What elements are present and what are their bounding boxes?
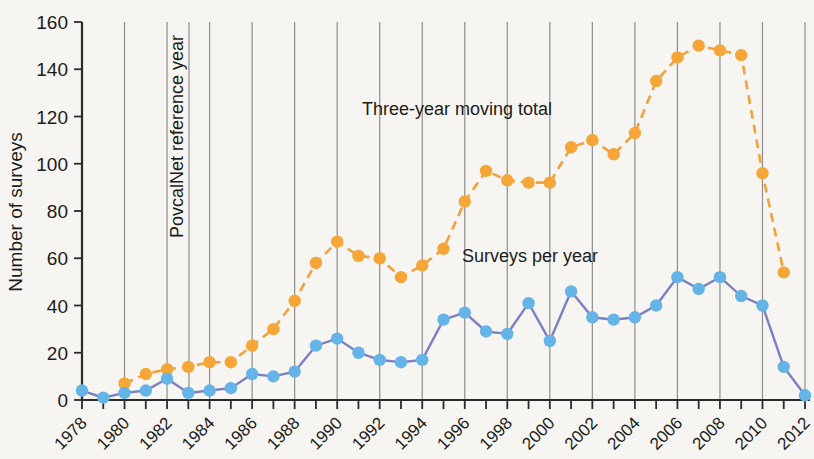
moving-total-point-2000 bbox=[544, 176, 556, 188]
surveys-per-year-point-1990 bbox=[331, 332, 343, 344]
annotation-moving-total: Three-year moving total bbox=[362, 99, 552, 119]
surveys-per-year-point-2006 bbox=[671, 271, 683, 283]
moving-total-point-1985 bbox=[225, 356, 237, 368]
moving-total-point-1991 bbox=[352, 250, 364, 262]
annotation-surveys-per-year: Surveys per year bbox=[462, 246, 598, 266]
moving-total-point-2007 bbox=[692, 39, 704, 51]
surveys-per-year-point-2008 bbox=[714, 271, 726, 283]
moving-total-point-1984 bbox=[203, 356, 215, 368]
y-tick-label-100: 100 bbox=[36, 154, 68, 175]
y-axis-label: Number of surveys bbox=[5, 132, 26, 291]
surveys-per-year-point-1982 bbox=[161, 373, 173, 385]
y-tick-label-0: 0 bbox=[57, 390, 68, 411]
y-tick-label-80: 80 bbox=[47, 201, 68, 222]
surveys-per-year-point-1998 bbox=[501, 328, 513, 340]
surveys-per-year-point-2001 bbox=[565, 285, 577, 297]
surveys-per-year-point-1993 bbox=[395, 356, 407, 368]
y-tick-label-40: 40 bbox=[47, 296, 68, 317]
surveys-per-year-point-2010 bbox=[756, 299, 768, 311]
surveys-per-year-point-1988 bbox=[288, 365, 300, 377]
moving-total-point-2001 bbox=[565, 141, 577, 153]
surveys-per-year-point-1994 bbox=[416, 354, 428, 366]
surveys-line-chart: 020406080100120140160 197819801982198419… bbox=[0, 0, 814, 459]
surveys-per-year-point-1984 bbox=[203, 384, 215, 396]
surveys-per-year-point-2005 bbox=[650, 299, 662, 311]
moving-total-point-1996 bbox=[459, 195, 471, 207]
moving-total-point-1995 bbox=[437, 243, 449, 255]
moving-total-point-1997 bbox=[480, 165, 492, 177]
moving-total-point-1983 bbox=[182, 361, 194, 373]
moving-total-point-1999 bbox=[522, 176, 534, 188]
surveys-per-year-point-1999 bbox=[522, 297, 534, 309]
moving-total-point-2008 bbox=[714, 44, 726, 56]
y-tick-label-160: 160 bbox=[36, 12, 68, 33]
moving-total-point-1989 bbox=[310, 257, 322, 269]
surveys-per-year-point-1995 bbox=[437, 313, 449, 325]
moving-total-point-2011 bbox=[778, 266, 790, 278]
moving-total-point-2002 bbox=[586, 134, 598, 146]
surveys-per-year-point-1992 bbox=[374, 354, 386, 366]
surveys-per-year-point-2000 bbox=[544, 335, 556, 347]
surveys-per-year-point-2004 bbox=[629, 311, 641, 323]
moving-total-point-2009 bbox=[735, 49, 747, 61]
y-tick-label-140: 140 bbox=[36, 59, 68, 80]
surveys-per-year-point-1983 bbox=[182, 387, 194, 399]
chart-container: 020406080100120140160 197819801982198419… bbox=[0, 0, 814, 459]
surveys-per-year-point-2011 bbox=[778, 361, 790, 373]
surveys-per-year-point-1987 bbox=[267, 370, 279, 382]
surveys-per-year-point-1978 bbox=[76, 384, 88, 396]
surveys-per-year-point-1989 bbox=[310, 339, 322, 351]
moving-total-point-1986 bbox=[246, 339, 258, 351]
moving-total-point-1998 bbox=[501, 174, 513, 186]
moving-total-point-1987 bbox=[267, 323, 279, 335]
moving-total-point-1990 bbox=[331, 236, 343, 248]
moving-total-point-1988 bbox=[288, 295, 300, 307]
surveys-per-year-point-1991 bbox=[352, 347, 364, 359]
povcalnet-reference-label: PovcalNet reference year bbox=[167, 35, 187, 238]
surveys-per-year-point-2007 bbox=[692, 283, 704, 295]
moving-total-point-1981 bbox=[140, 368, 152, 380]
moving-total-point-2005 bbox=[650, 75, 662, 87]
surveys-per-year-point-1979 bbox=[97, 391, 109, 403]
surveys-per-year-point-2002 bbox=[586, 311, 598, 323]
surveys-per-year-point-1986 bbox=[246, 368, 258, 380]
surveys-per-year-point-2012 bbox=[799, 389, 811, 401]
moving-total-point-2006 bbox=[671, 51, 683, 63]
moving-total-point-1994 bbox=[416, 259, 428, 271]
surveys-per-year-point-1985 bbox=[225, 382, 237, 394]
moving-total-point-2003 bbox=[607, 148, 619, 160]
moving-total-point-1993 bbox=[395, 271, 407, 283]
surveys-per-year-point-1980 bbox=[118, 387, 130, 399]
surveys-per-year-point-2009 bbox=[735, 290, 747, 302]
surveys-per-year-point-1996 bbox=[459, 306, 471, 318]
moving-total-point-2010 bbox=[756, 167, 768, 179]
y-tick-label-20: 20 bbox=[47, 343, 68, 364]
y-tick-label-60: 60 bbox=[47, 248, 68, 269]
surveys-per-year-point-1981 bbox=[140, 384, 152, 396]
surveys-per-year-point-1997 bbox=[480, 325, 492, 337]
surveys-per-year-point-2003 bbox=[607, 313, 619, 325]
moving-total-point-1992 bbox=[374, 252, 386, 264]
y-tick-label-120: 120 bbox=[36, 107, 68, 128]
moving-total-point-2004 bbox=[629, 127, 641, 139]
